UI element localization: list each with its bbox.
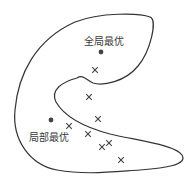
diagram-canvas: 全局最优 局部最优	[0, 0, 196, 190]
global-optimum-dot-icon	[99, 50, 104, 55]
sample-point-cross-icon	[118, 157, 124, 163]
global-optimum-label: 全局最优	[84, 33, 124, 48]
sample-point-cross-icon	[66, 123, 72, 129]
sample-point-cross-icon	[95, 116, 101, 122]
sample-point-cross-icon	[85, 131, 91, 137]
sample-point-cross-icon	[99, 144, 105, 150]
sample-point-cross-icon	[106, 140, 112, 146]
sample-point-cross-icon	[92, 67, 98, 73]
local-optimum-label: 局部最优	[29, 129, 69, 144]
search-region-diagram	[0, 0, 196, 190]
local-optimum-dot-icon	[49, 118, 54, 123]
sample-point-cross-icon	[86, 94, 92, 100]
